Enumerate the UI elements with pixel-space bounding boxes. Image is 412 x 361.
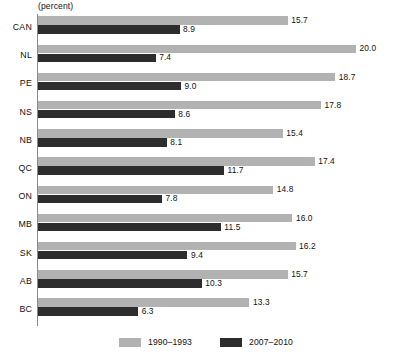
bar-track: 15.7 bbox=[38, 270, 356, 278]
bar-nb-series-0[interactable] bbox=[38, 129, 283, 137]
category-label-nl: NL bbox=[0, 50, 32, 61]
value-label: 7.4 bbox=[156, 51, 171, 63]
bar-on-series-0[interactable] bbox=[38, 186, 273, 194]
value-label: 11.5 bbox=[221, 221, 241, 233]
bar-track: 17.8 bbox=[38, 101, 356, 109]
bar-track: 9.4 bbox=[38, 251, 356, 259]
value-label: 16.0 bbox=[292, 212, 312, 224]
value-label: 10.3 bbox=[202, 277, 222, 289]
bar-mb-series-0[interactable] bbox=[38, 214, 292, 222]
value-label: 7.8 bbox=[162, 192, 177, 204]
bar-mb-series-1[interactable] bbox=[38, 223, 221, 231]
bar-track: 15.4 bbox=[38, 129, 356, 137]
bar-group: CAN15.78.9 bbox=[0, 14, 412, 42]
value-label: 9.0 bbox=[181, 80, 196, 92]
bar-ab-series-0[interactable] bbox=[38, 270, 288, 278]
legend-label: 2007–2010 bbox=[249, 337, 293, 347]
value-label: 13.3 bbox=[249, 296, 269, 308]
value-label: 18.7 bbox=[335, 71, 355, 83]
bar-on-series-1[interactable] bbox=[38, 195, 162, 203]
value-label: 8.1 bbox=[167, 136, 182, 148]
bar-track: 20.0 bbox=[38, 45, 356, 53]
value-label: 14.8 bbox=[273, 183, 293, 195]
bar-can-series-1[interactable] bbox=[38, 25, 180, 33]
value-label: 8.6 bbox=[175, 108, 190, 120]
legend-swatch-icon bbox=[119, 338, 141, 347]
category-label-bc: BC bbox=[0, 304, 32, 315]
bar-group: QC17.411.7 bbox=[0, 155, 412, 183]
bar-track: 15.7 bbox=[38, 16, 356, 24]
legend-label: 1990–1993 bbox=[148, 337, 192, 347]
bar-group: PE18.79.0 bbox=[0, 70, 412, 98]
bar-track: 17.4 bbox=[38, 157, 356, 165]
bar-chart: (percent) CAN15.78.9NL20.07.4PE18.79.0NS… bbox=[0, 0, 412, 361]
bar-track: 11.5 bbox=[38, 223, 356, 231]
bar-track: 6.3 bbox=[38, 307, 356, 315]
bar-track: 16.0 bbox=[38, 214, 356, 222]
bar-group: NS17.88.6 bbox=[0, 99, 412, 127]
legend-swatch-icon bbox=[220, 338, 242, 347]
bar-track: 10.3 bbox=[38, 279, 356, 287]
chart-legend: 1990–19932007–2010 bbox=[0, 334, 412, 350]
bar-group: NB15.48.1 bbox=[0, 127, 412, 155]
category-label-ns: NS bbox=[0, 107, 32, 118]
value-label: 15.7 bbox=[288, 268, 308, 280]
bar-group: SK16.29.4 bbox=[0, 240, 412, 268]
value-label: 17.8 bbox=[321, 99, 341, 111]
category-label-on: ON bbox=[0, 191, 32, 202]
plot-area: CAN15.78.9NL20.07.4PE18.79.0NS17.88.6NB1… bbox=[0, 14, 412, 326]
category-label-can: CAN bbox=[0, 22, 32, 33]
bar-track: 8.6 bbox=[38, 110, 356, 118]
category-label-ab: AB bbox=[0, 276, 32, 287]
category-label-qc: QC bbox=[0, 163, 32, 174]
value-label: 15.7 bbox=[288, 14, 308, 26]
bar-nl-series-1[interactable] bbox=[38, 54, 156, 62]
axis-unit-label: (percent) bbox=[38, 1, 73, 11]
bar-sk-series-0[interactable] bbox=[38, 242, 296, 250]
bar-ab-series-1[interactable] bbox=[38, 279, 202, 287]
legend-entry-1[interactable]: 2007–2010 bbox=[220, 337, 293, 347]
bar-track: 13.3 bbox=[38, 298, 356, 306]
bar-track: 7.8 bbox=[38, 195, 356, 203]
value-label: 20.0 bbox=[356, 42, 376, 54]
category-label-sk: SK bbox=[0, 248, 32, 259]
bar-group: ON14.87.8 bbox=[0, 183, 412, 211]
bar-group: MB16.011.5 bbox=[0, 211, 412, 239]
value-label: 17.4 bbox=[315, 155, 335, 167]
bar-sk-series-1[interactable] bbox=[38, 251, 187, 259]
category-label-pe: PE bbox=[0, 78, 32, 89]
category-label-mb: MB bbox=[0, 219, 32, 230]
bar-can-series-0[interactable] bbox=[38, 16, 288, 24]
bar-group: BC13.36.3 bbox=[0, 296, 412, 324]
value-label: 15.4 bbox=[283, 127, 303, 139]
bar-track: 18.7 bbox=[38, 73, 356, 81]
bar-track: 11.7 bbox=[38, 166, 356, 174]
bar-track: 14.8 bbox=[38, 186, 356, 194]
bar-qc-series-0[interactable] bbox=[38, 157, 315, 165]
bar-ns-series-1[interactable] bbox=[38, 110, 175, 118]
bar-qc-series-1[interactable] bbox=[38, 166, 224, 174]
bar-track: 7.4 bbox=[38, 54, 356, 62]
value-label: 6.3 bbox=[138, 305, 153, 317]
bar-group: NL20.07.4 bbox=[0, 42, 412, 70]
bar-pe-series-1[interactable] bbox=[38, 82, 181, 90]
bar-nl-series-0[interactable] bbox=[38, 45, 356, 53]
value-label: 11.7 bbox=[224, 164, 244, 176]
legend-entry-0[interactable]: 1990–1993 bbox=[119, 337, 192, 347]
bar-bc-series-1[interactable] bbox=[38, 307, 138, 315]
category-label-nb: NB bbox=[0, 135, 32, 146]
value-label: 9.4 bbox=[187, 249, 202, 261]
bar-track: 9.0 bbox=[38, 82, 356, 90]
bar-track: 8.1 bbox=[38, 138, 356, 146]
bar-group: AB15.710.3 bbox=[0, 268, 412, 296]
bar-track: 8.9 bbox=[38, 25, 356, 33]
bar-nb-series-1[interactable] bbox=[38, 138, 167, 146]
value-label: 16.2 bbox=[296, 240, 316, 252]
value-label: 8.9 bbox=[180, 23, 195, 35]
